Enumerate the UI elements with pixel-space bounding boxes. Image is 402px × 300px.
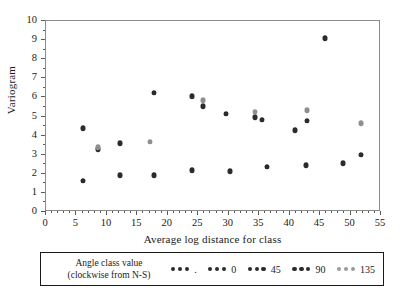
x-minor-tick xyxy=(88,211,89,213)
legend-dot-icon xyxy=(344,267,348,271)
legend-entry-label: 45 xyxy=(269,264,281,275)
x-tick xyxy=(289,211,290,215)
x-minor-tick xyxy=(240,211,241,213)
x-tick-label: 45 xyxy=(307,218,331,228)
y-minor-tick xyxy=(43,201,45,202)
legend-dot-icon xyxy=(208,267,212,271)
x-minor-tick xyxy=(82,211,83,213)
y-tick-label: 2 xyxy=(15,168,37,178)
x-minor-tick xyxy=(130,211,131,213)
data-point xyxy=(227,169,232,175)
x-minor-tick xyxy=(100,211,101,213)
data-point xyxy=(117,140,122,146)
x-tick xyxy=(136,211,137,215)
legend-dot-icon xyxy=(222,267,226,271)
data-point xyxy=(253,109,258,115)
legend-dot-icon xyxy=(351,267,355,271)
x-tick-label: 55 xyxy=(368,218,392,228)
y-minor-tick xyxy=(43,163,45,164)
y-minor-tick xyxy=(43,144,45,145)
y-tick-label: 0 xyxy=(15,206,37,216)
y-tick xyxy=(41,39,45,40)
legend-title-line1: Angle class value xyxy=(49,257,169,269)
legend-title-line2: (clockwise from N-S) xyxy=(49,269,169,281)
y-minor-tick xyxy=(43,68,45,69)
x-minor-tick xyxy=(118,211,119,213)
y-tick-label: 7 xyxy=(15,72,37,82)
data-point xyxy=(80,178,85,184)
x-minor-tick xyxy=(270,211,271,213)
y-tick-label: 10 xyxy=(15,15,37,25)
x-minor-tick xyxy=(313,211,314,213)
data-point xyxy=(359,152,364,158)
y-tick xyxy=(41,135,45,136)
legend-entries: .04590135 xyxy=(171,253,379,285)
legend-marker-icon xyxy=(292,267,310,271)
x-minor-tick xyxy=(155,211,156,213)
x-minor-tick xyxy=(283,211,284,213)
x-tick-label: 30 xyxy=(216,218,240,228)
y-tick xyxy=(41,173,45,174)
x-tick xyxy=(319,211,320,215)
legend-entry: . xyxy=(171,264,197,275)
y-minor-tick xyxy=(43,182,45,183)
legend-marker-icon xyxy=(337,267,355,271)
y-tick-label: 9 xyxy=(15,34,37,44)
legend-dot-icon xyxy=(292,267,296,271)
data-point xyxy=(95,144,100,150)
x-tick-label: 0 xyxy=(33,218,57,228)
x-minor-tick xyxy=(142,211,143,213)
x-minor-tick xyxy=(356,211,357,213)
x-tick-label: 35 xyxy=(246,218,270,228)
y-minor-tick xyxy=(43,30,45,31)
data-point xyxy=(304,118,309,124)
y-tick xyxy=(41,77,45,78)
x-minor-tick xyxy=(185,211,186,213)
data-point xyxy=(80,125,85,131)
x-minor-tick xyxy=(301,211,302,213)
y-tick xyxy=(41,96,45,97)
legend-dot-icon xyxy=(255,267,259,271)
x-tick xyxy=(258,211,259,215)
x-minor-tick xyxy=(337,211,338,213)
y-tick xyxy=(41,20,45,21)
x-tick xyxy=(197,211,198,215)
data-point xyxy=(117,172,122,178)
x-minor-tick xyxy=(112,211,113,213)
legend-dot-icon xyxy=(215,267,219,271)
y-tick xyxy=(41,192,45,193)
legend-entry-label: . xyxy=(192,264,197,275)
legend-title: Angle class value (clockwise from N-S) xyxy=(49,257,169,281)
x-minor-tick xyxy=(222,211,223,213)
x-minor-tick xyxy=(179,211,180,213)
data-point xyxy=(189,167,194,173)
x-minor-tick xyxy=(57,211,58,213)
x-minor-tick xyxy=(246,211,247,213)
y-tick-label: 1 xyxy=(15,187,37,197)
x-tick xyxy=(380,211,381,215)
legend-dot-icon xyxy=(337,267,341,271)
x-minor-tick xyxy=(69,211,70,213)
y-tick xyxy=(41,58,45,59)
data-point xyxy=(259,117,264,123)
x-minor-tick xyxy=(203,211,204,213)
x-tick-label: 15 xyxy=(124,218,148,228)
data-point xyxy=(200,103,205,109)
y-minor-tick xyxy=(43,49,45,50)
x-tick-label: 25 xyxy=(185,218,209,228)
data-point xyxy=(152,90,157,96)
x-tick xyxy=(350,211,351,215)
legend: Angle class value (clockwise from N-S) .… xyxy=(40,252,384,286)
legend-dot-icon xyxy=(299,267,303,271)
data-point xyxy=(340,160,345,166)
x-minor-tick xyxy=(331,211,332,213)
y-tick-label: 8 xyxy=(15,53,37,63)
y-minor-tick xyxy=(43,106,45,107)
x-minor-tick xyxy=(191,211,192,213)
legend-entry: 135 xyxy=(337,264,375,275)
y-tick-label: 5 xyxy=(15,111,37,121)
x-tick-label: 10 xyxy=(94,218,118,228)
x-tick-label: 40 xyxy=(277,218,301,228)
data-point xyxy=(304,107,309,113)
x-minor-tick xyxy=(173,211,174,213)
